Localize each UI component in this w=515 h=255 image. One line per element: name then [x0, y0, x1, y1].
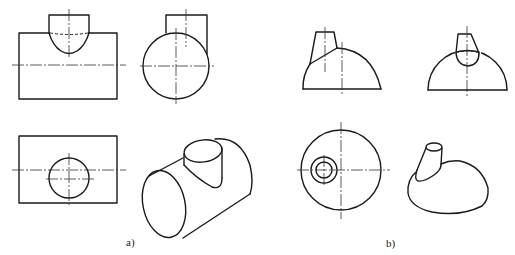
top-silhouette-line: [149, 158, 183, 176]
intersection-curve: [184, 165, 222, 188]
bottom-silhouette-line: [183, 194, 250, 238]
cone-top-ellipse: [426, 143, 442, 151]
panel-b: [297, 26, 507, 219]
main-cylinder-outline: [19, 33, 117, 99]
technical-drawing: [0, 0, 515, 255]
cone-right-edge: [441, 148, 442, 165]
cone-outline: [310, 32, 337, 64]
panel-b-side-view: [428, 26, 507, 96]
panel-b-caption: b): [386, 237, 395, 249]
panel-b-isometric-view: [408, 143, 488, 214]
dome-outline: [408, 161, 488, 214]
hemisphere-left-arc: [303, 64, 310, 89]
panel-a-caption: a): [126, 236, 135, 248]
panel-b-top-view: [297, 122, 390, 219]
panel-b-front-view: [303, 27, 381, 95]
panel-a-front-view: [12, 9, 126, 99]
panel-a-top-view: [12, 136, 126, 207]
panel-a-isometric-view: [136, 137, 252, 241]
front-end-ellipse: [136, 166, 191, 241]
cone-left-edge: [417, 148, 426, 170]
intersection-line: [310, 48, 337, 64]
hemisphere-arc: [428, 51, 507, 91]
branch-top-ellipse: [183, 137, 224, 164]
intersection-curve: [456, 53, 479, 66]
main-cylinder-top-outline: [19, 136, 117, 203]
panel-a: [12, 9, 252, 242]
panel-a-side-view: [140, 9, 214, 104]
intersection-curve: [416, 165, 441, 181]
hemisphere-right-arc: [337, 48, 381, 89]
